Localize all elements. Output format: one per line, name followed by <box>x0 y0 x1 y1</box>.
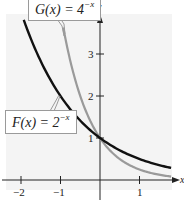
x-axis-arrow-icon <box>172 177 180 183</box>
g-label-text: G(x) = 4 <box>35 2 84 17</box>
y-tick-label-3: 3 <box>88 49 94 60</box>
x-tick-label-1: 1 <box>137 187 143 198</box>
y-tick-label-1: 1 <box>88 133 94 144</box>
x-axis-label: x <box>180 175 184 185</box>
f-label-text: F(x) = 2 <box>12 115 60 130</box>
g-label-exponent: −x <box>84 0 94 9</box>
f-function-label: F(x) = 2−x <box>5 110 77 134</box>
x-tick-label--2: −2 <box>13 187 25 198</box>
y-tick-label-2: 2 <box>88 91 94 102</box>
f-label-exponent: −x <box>60 112 70 122</box>
x-tick-label--1: −1 <box>53 187 65 198</box>
g-function-label: G(x) = 4−x <box>28 0 101 21</box>
